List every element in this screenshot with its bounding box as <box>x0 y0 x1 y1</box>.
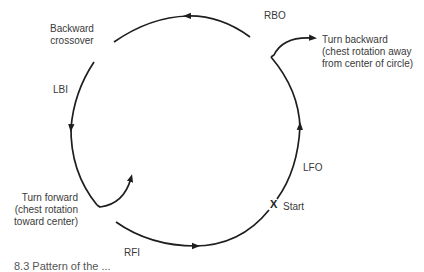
lbi-arc <box>71 62 97 205</box>
turn-backward-label: Turn backward (chest rotation away from … <box>322 34 413 70</box>
rfi-arc <box>116 210 269 246</box>
turn-forward-label: Turn forward (chest rotation toward cent… <box>8 192 78 228</box>
turn-forward-hook <box>97 178 131 207</box>
lfo-arc <box>271 57 300 199</box>
start-marker: X <box>270 199 277 210</box>
rbo-arc <box>114 16 250 42</box>
start-label: Start <box>283 201 304 213</box>
rfi-label: RFI <box>124 247 140 259</box>
lbi-label: LBI <box>53 84 68 96</box>
backward-crossover-label: Backward crossover <box>50 23 94 47</box>
figure-caption: 8.3 Pattern of the ... <box>14 260 111 272</box>
rbo-label: RBO <box>264 10 286 22</box>
lfo-label: LFO <box>303 162 322 174</box>
turn-backward-hook <box>271 38 313 57</box>
